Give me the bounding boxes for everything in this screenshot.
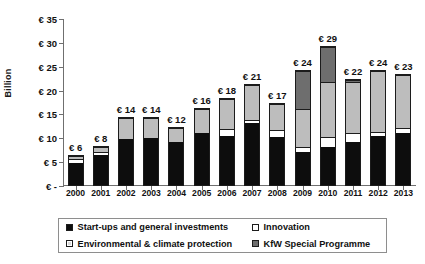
bar-group[interactable]: € 18 xyxy=(214,19,239,186)
x-tick-label: 2013 xyxy=(386,188,420,198)
bar-segment-startups xyxy=(195,133,209,185)
bar-segment-startups xyxy=(169,142,183,185)
bar-segment-startups xyxy=(144,138,158,185)
bar-segment-startups xyxy=(296,152,310,185)
bar-segment-startups xyxy=(346,142,360,185)
bar-segment-startups xyxy=(371,136,385,185)
chart-legend: Start-ups and general investmentsInnovat… xyxy=(58,218,387,253)
bar-total-label: € 29 xyxy=(318,33,337,44)
bar-total-label: € 24 xyxy=(369,57,388,68)
chart-container: Billion € 6€ 8€ 14€ 14€ 12€ 16€ 18€ 21€ … xyxy=(0,0,425,264)
bar-segment-environment xyxy=(144,118,158,138)
bar-segment-innovation xyxy=(346,133,360,143)
bar-stack[interactable] xyxy=(269,103,285,186)
legend-swatch-icon xyxy=(66,240,73,247)
bar-stack[interactable] xyxy=(194,108,210,186)
bar-group[interactable]: € 8 xyxy=(88,19,113,186)
bar-total-label: € 6 xyxy=(69,142,82,153)
bar-segment-environment xyxy=(371,71,385,132)
bar-segment-environment xyxy=(220,99,234,129)
y-tick-label: € 20 xyxy=(39,85,58,96)
y-tick-label: € 25 xyxy=(39,61,58,72)
bar-total-label: € 16 xyxy=(192,95,211,106)
bar-total-label: € 22 xyxy=(344,66,363,77)
bar-stack[interactable] xyxy=(168,127,184,186)
legend-label: Innovation xyxy=(264,222,310,232)
legend-item[interactable]: Innovation xyxy=(252,222,395,232)
bar-segment-environment xyxy=(346,82,360,132)
bar-segment-startups xyxy=(119,139,133,185)
bar-total-label: € 24 xyxy=(293,57,312,68)
bar-total-label: € 14 xyxy=(117,104,136,115)
bar-segment-startups xyxy=(396,133,410,185)
bar-total-label: € 17 xyxy=(268,90,287,101)
bar-segment-startups xyxy=(94,155,108,185)
bar-stack[interactable] xyxy=(395,74,411,186)
bar-segment-environment xyxy=(321,82,335,137)
bar-group[interactable]: € 14 xyxy=(139,19,164,186)
legend-item[interactable]: Environmental & climate protection xyxy=(66,239,252,249)
bar-group[interactable]: € 24 xyxy=(290,19,315,186)
y-tick xyxy=(59,114,64,115)
bar-stack[interactable] xyxy=(219,98,235,186)
bar-group[interactable]: € 12 xyxy=(164,19,189,186)
bar-total-label: € 23 xyxy=(394,61,413,72)
bar-group[interactable]: € 24 xyxy=(366,19,391,186)
bar-segment-startups xyxy=(220,136,234,185)
bar-stack[interactable] xyxy=(68,155,84,186)
bar-segment-innovation xyxy=(220,129,234,136)
legend-swatch-icon xyxy=(252,240,259,247)
legend-label: Start-ups and general investments xyxy=(78,222,229,232)
y-tick-label: € 30 xyxy=(39,37,58,48)
bar-group[interactable]: € 16 xyxy=(189,19,214,186)
y-tick-label: € 10 xyxy=(39,133,58,144)
bar-stack[interactable] xyxy=(118,117,134,186)
bar-stack[interactable] xyxy=(244,84,260,186)
y-tick-label: € 15 xyxy=(39,109,58,120)
bar-segment-startups xyxy=(321,147,335,185)
bar-segment-environment xyxy=(396,75,410,127)
y-tick xyxy=(59,43,64,44)
y-tick-label: € - xyxy=(46,181,57,192)
bar-group[interactable]: € 6 xyxy=(63,19,88,186)
bar-series-layer: € 6€ 8€ 14€ 14€ 12€ 16€ 18€ 21€ 17€ 24€ … xyxy=(63,19,416,186)
bar-segment-kfw xyxy=(296,71,310,109)
y-tick-label: € 35 xyxy=(39,14,58,25)
bar-segment-startups xyxy=(69,163,83,185)
bar-total-label: € 8 xyxy=(94,133,107,144)
bar-stack[interactable] xyxy=(370,70,386,186)
bar-total-label: € 21 xyxy=(243,71,262,82)
legend-swatch-icon xyxy=(66,224,73,231)
bar-stack[interactable] xyxy=(143,117,159,186)
bar-stack[interactable] xyxy=(345,79,361,186)
bar-segment-innovation xyxy=(321,137,335,147)
bar-segment-environment xyxy=(296,109,310,147)
legend-swatch-icon xyxy=(252,224,259,231)
bar-group[interactable]: € 23 xyxy=(391,19,416,186)
bar-group[interactable]: € 22 xyxy=(340,19,365,186)
bar-total-label: € 18 xyxy=(218,85,237,96)
bar-group[interactable]: € 21 xyxy=(240,19,265,186)
legend-item[interactable]: KfW Special Programme xyxy=(252,239,395,249)
bar-total-label: € 14 xyxy=(142,104,161,115)
bar-group[interactable]: € 14 xyxy=(113,19,138,186)
bar-segment-startups xyxy=(270,137,284,185)
bar-total-label: € 12 xyxy=(167,114,186,125)
bar-stack[interactable] xyxy=(93,146,109,186)
bar-segment-kfw xyxy=(321,47,335,83)
y-axis-title: Billion xyxy=(3,53,13,113)
bar-segment-innovation xyxy=(270,130,284,137)
y-tick xyxy=(59,162,64,163)
bar-segment-environment xyxy=(195,109,209,134)
plot-area: € 6€ 8€ 14€ 14€ 12€ 16€ 18€ 21€ 17€ 24€ … xyxy=(63,19,416,186)
y-tick xyxy=(59,67,64,68)
bar-segment-environment xyxy=(169,128,183,142)
bar-group[interactable]: € 29 xyxy=(315,19,340,186)
legend-item[interactable]: Start-ups and general investments xyxy=(66,222,252,232)
y-tick xyxy=(59,19,64,20)
bar-stack[interactable] xyxy=(320,46,336,186)
bar-stack[interactable] xyxy=(295,70,311,186)
bar-group[interactable]: € 17 xyxy=(265,19,290,186)
y-tick xyxy=(59,138,64,139)
y-tick-label: € 5 xyxy=(44,157,57,168)
